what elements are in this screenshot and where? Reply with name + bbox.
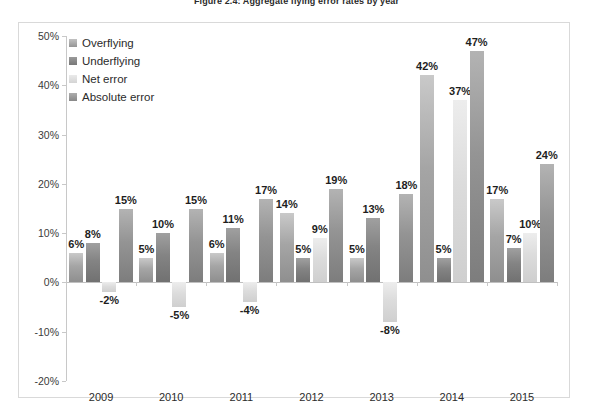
y-axis-tick-label: 0% — [44, 276, 59, 288]
y-axis-tick-label: 40% — [38, 79, 59, 91]
bar — [453, 100, 467, 282]
bar-value-label: 5% — [349, 243, 365, 255]
bar-value-label: 11% — [222, 213, 243, 225]
bar — [139, 258, 153, 283]
bar-value-label: 13% — [362, 203, 384, 215]
bar-value-label: -4% — [240, 304, 260, 316]
bar — [86, 243, 100, 282]
bar — [243, 282, 257, 302]
bar-value-label: 8% — [85, 228, 101, 240]
bar-value-label: 37% — [449, 85, 471, 97]
bar-value-label: 18% — [395, 179, 417, 191]
bar-value-label: 15% — [115, 194, 137, 206]
bar — [259, 199, 273, 283]
bar-value-label: -8% — [380, 324, 400, 336]
bar-value-label: 10% — [152, 218, 174, 230]
bar-value-label: 24% — [536, 149, 558, 161]
bar-value-label: 15% — [185, 194, 207, 206]
y-axis-tick — [62, 233, 66, 234]
bar — [119, 209, 133, 283]
bar — [366, 218, 380, 282]
bar — [296, 258, 310, 283]
y-axis-tick — [62, 135, 66, 136]
x-axis-tick — [66, 282, 67, 286]
bar — [313, 238, 327, 282]
bar-value-label: 9% — [312, 223, 328, 235]
y-axis-line — [66, 36, 67, 381]
x-axis-category-label: 2015 — [510, 391, 534, 403]
y-axis-tick-label: -10% — [34, 326, 59, 338]
bar — [437, 258, 451, 283]
plot-area: 50%40%30%20%10%0%-10%-20%6%8%-2%15%20095… — [66, 36, 557, 381]
bar-value-label: 6% — [209, 238, 225, 250]
bar-value-label: -5% — [170, 309, 190, 321]
x-axis-tick — [487, 282, 488, 286]
bar-value-label: 17% — [486, 184, 508, 196]
bar — [226, 228, 240, 282]
zero-baseline — [66, 282, 557, 283]
bar-value-label: 14% — [276, 198, 298, 210]
bar — [490, 199, 504, 283]
bar-value-label: 5% — [139, 243, 155, 255]
y-axis-tick-label: 30% — [38, 129, 59, 141]
x-axis-tick — [417, 282, 418, 286]
bar — [383, 282, 397, 321]
bar-value-label: 42% — [416, 60, 438, 72]
bar — [156, 233, 170, 282]
bar — [329, 189, 343, 283]
chart-frame: OverflyingUnderflyingNet errorAbsolute e… — [18, 22, 570, 398]
bar-value-label: 17% — [255, 184, 277, 196]
y-axis-tick — [62, 85, 66, 86]
y-axis-tick-label: 10% — [38, 227, 59, 239]
x-axis-tick — [206, 282, 207, 286]
bar-value-label: 19% — [325, 174, 347, 186]
bar-value-label: 5% — [295, 243, 311, 255]
bar — [523, 233, 537, 282]
x-axis-tick — [136, 282, 137, 286]
x-axis-category-label: 2010 — [159, 391, 183, 403]
bar — [399, 194, 413, 283]
bar — [280, 213, 294, 282]
bar — [189, 209, 203, 283]
y-axis-tick-label: -20% — [34, 375, 59, 387]
y-axis-tick — [62, 184, 66, 185]
bar-value-label: 5% — [436, 243, 452, 255]
bar — [507, 248, 521, 283]
figure-title: Figure 2.4: Aggregate flying error rates… — [0, 0, 593, 7]
bar — [540, 164, 554, 282]
bar — [102, 282, 116, 292]
bar-value-label: 10% — [519, 218, 541, 230]
bar — [350, 258, 364, 283]
y-axis-tick-label: 20% — [38, 178, 59, 190]
bar-value-label: -2% — [100, 294, 120, 306]
bar — [172, 282, 186, 307]
bar — [69, 253, 83, 283]
x-axis-category-label: 2011 — [230, 391, 254, 403]
y-axis-tick-label: 50% — [38, 30, 59, 42]
x-axis-category-label: 2014 — [440, 391, 464, 403]
bar-value-label: 7% — [506, 233, 522, 245]
y-axis-tick — [62, 36, 66, 37]
bar-value-label: 47% — [466, 36, 488, 48]
bar — [420, 75, 434, 282]
x-axis-category-label: 2009 — [89, 391, 113, 403]
y-axis-tick — [62, 381, 66, 382]
x-axis-tick — [557, 282, 558, 286]
x-axis-tick — [347, 282, 348, 286]
bar — [470, 51, 484, 283]
x-axis-tick — [276, 282, 277, 286]
y-axis-tick — [62, 332, 66, 333]
bar — [210, 253, 224, 283]
x-axis-category-label: 2012 — [299, 391, 323, 403]
bar-value-label: 6% — [68, 238, 84, 250]
x-axis-category-label: 2013 — [369, 391, 393, 403]
